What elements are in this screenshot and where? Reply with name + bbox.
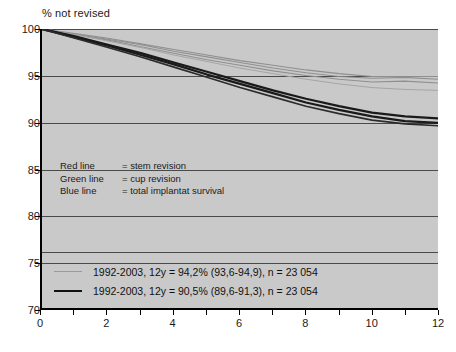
x-tick-mark-3: [140, 310, 141, 315]
x-tick-mark-6: [239, 310, 240, 315]
line-color-key-row: Red line = stem revision: [60, 160, 224, 173]
x-tick-mark-4: [173, 310, 174, 315]
line-color-key-label: Green line: [60, 173, 122, 186]
line-color-key-value: = total implantat survival: [122, 185, 224, 198]
legend-item-label: 1992-2003, 12y = 90,5% (89,6-91,3), n = …: [93, 285, 318, 297]
line-color-key-row: Green line = cup revision: [60, 173, 224, 186]
x-tick-label-10: 10: [366, 317, 378, 329]
x-tick-label-0: 0: [37, 317, 43, 329]
y-axis-labels: 707580859095100: [0, 29, 40, 310]
chart-root: % not revised 707580859095100 Red line =…: [0, 0, 456, 352]
x-tick-mark-0: [40, 310, 41, 315]
x-tick-label-12: 12: [432, 317, 444, 329]
line-color-key: Red line = stem revision Green line = cu…: [60, 160, 224, 198]
x-tick-mark-5: [206, 310, 207, 315]
x-tick-mark-2: [106, 310, 107, 315]
line-color-key-row: Blue line = total implantat survival: [60, 185, 224, 198]
x-tick-mark-7: [272, 310, 273, 315]
chart-legend: 1992-2003, 12y = 94,2% (93,6-94,9), n = …: [42, 252, 438, 308]
x-tick-mark-1: [73, 310, 74, 315]
x-tick-label-6: 6: [236, 317, 242, 329]
x-tick-label-8: 8: [302, 317, 308, 329]
line-color-key-value: = stem revision: [122, 160, 224, 173]
line-color-key-label: Blue line: [60, 185, 122, 198]
x-tick-mark-9: [339, 310, 340, 315]
plot-inner: Red line = stem revision Green line = cu…: [42, 29, 438, 308]
series-line-stem-revision: [42, 29, 438, 118]
plot-area: Red line = stem revision Green line = cu…: [40, 29, 438, 310]
chart-title: % not revised: [42, 7, 110, 19]
line-color-key-label: Red line: [60, 160, 122, 173]
x-axis-ticks: [40, 310, 438, 317]
x-tick-mark-11: [405, 310, 406, 315]
legend-line-swatch-light: [54, 271, 82, 272]
legend-item: 1992-2003, 12y = 90,5% (89,6-91,3), n = …: [54, 281, 438, 300]
series-line-stem-revision-upper: [42, 29, 438, 76]
x-tick-label-4: 4: [170, 317, 176, 329]
x-axis-labels: 024681012: [40, 317, 438, 333]
legend-line-swatch-dark: [54, 290, 82, 292]
legend-item: 1992-2003, 12y = 94,2% (93,6-94,9), n = …: [54, 262, 438, 281]
x-tick-mark-10: [372, 310, 373, 315]
legend-item-label: 1992-2003, 12y = 94,2% (93,6-94,9), n = …: [93, 266, 318, 278]
line-color-key-value: = cup revision: [122, 173, 224, 186]
x-tick-mark-8: [305, 310, 306, 315]
series-line-cup-revision-upper: [42, 29, 438, 79]
x-tick-mark-12: [438, 310, 439, 315]
x-tick-label-2: 2: [103, 317, 109, 329]
